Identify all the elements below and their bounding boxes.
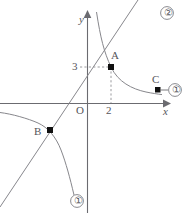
point-label-C: C — [152, 74, 159, 85]
y-tick-label-3: 3 — [72, 61, 78, 72]
curve-label-2: ② — [164, 8, 173, 18]
guide-lines-group — [80, 67, 111, 103]
y-axis-arrowhead — [84, 10, 92, 18]
y-axis-label: y — [79, 14, 84, 25]
curve-label-1-right: ① — [172, 85, 181, 95]
point-label-A: A — [111, 50, 119, 61]
curve-label-1-bottom: ① — [74, 196, 83, 206]
point-label-B: B — [34, 126, 41, 137]
point-marker-B — [47, 127, 53, 133]
point-marker-C — [155, 87, 161, 93]
origin-label: O — [76, 105, 84, 116]
point-marker-A — [108, 64, 114, 70]
x-axis-label: x — [163, 106, 168, 117]
math-figure: y x O 2 3 A B C ② ① ① — [0, 0, 187, 213]
x-tick-label-2: 2 — [106, 105, 112, 116]
graph-canvas — [0, 0, 187, 213]
